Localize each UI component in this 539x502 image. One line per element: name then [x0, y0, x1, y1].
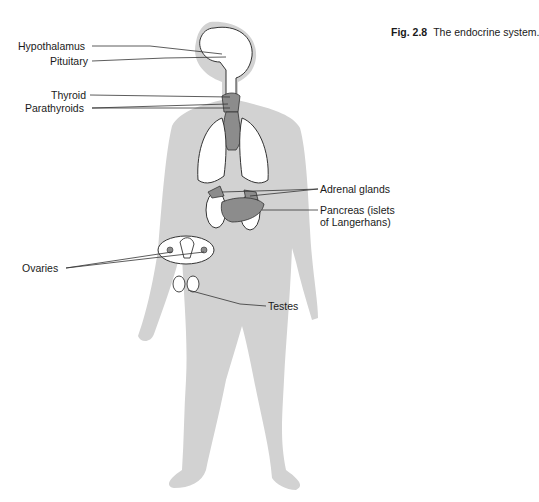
label-pancreas-line2: of Langerhans) [320, 216, 391, 228]
label-parathyroids: Parathyroids [25, 102, 84, 114]
label-hypothalamus: Hypothalamus [18, 40, 85, 52]
label-pancreas-line1: Pancreas (islets [320, 204, 395, 216]
figure-caption: Fig. 2.8The endocrine system. [391, 26, 539, 38]
thyroid-gland [222, 93, 240, 112]
testis-left [173, 276, 185, 292]
label-thyroid: Thyroid [51, 89, 86, 101]
figure-number: Fig. 2.8 [391, 26, 427, 38]
label-testes: Testes [268, 300, 298, 312]
label-ovaries: Ovaries [22, 262, 58, 274]
figure-title: The endocrine system. [433, 26, 539, 38]
label-pituitary: Pituitary [50, 55, 88, 67]
testis-right [187, 276, 199, 292]
label-adrenal-glands: Adrenal glands [320, 183, 390, 195]
leader-thyroid [90, 95, 230, 97]
